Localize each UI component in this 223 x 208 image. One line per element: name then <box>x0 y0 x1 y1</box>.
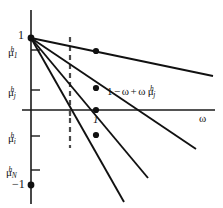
data-point-intercept-one <box>28 35 35 42</box>
data-point-mu-j <box>93 85 99 91</box>
x-axis-label-omega: ω <box>199 113 206 124</box>
plot-canvas <box>0 0 223 208</box>
y-label-minus-one: −1 <box>12 178 25 190</box>
data-point-minus-one <box>28 182 35 189</box>
formula-plus-sign: + <box>130 85 136 97</box>
y-label-mu-i: μhi <box>8 129 16 146</box>
subscript-index: i <box>14 137 16 146</box>
formula-annotation: 1−ω+ω μhj <box>107 85 155 98</box>
subscript-index: 1 <box>14 51 18 60</box>
formula-omega-first: ω <box>122 85 129 97</box>
figure-container: 1 μh1 μhj μhi μhN −1 1 ω 1−ω+ω μhj <box>0 0 223 208</box>
y-label-mu-1: μh1 <box>8 43 17 60</box>
formula-omega-second: ω <box>138 85 145 97</box>
y-label-mu-j: μhj <box>8 83 16 100</box>
formula-minus-sign: − <box>114 85 120 97</box>
formula-term-one: 1 <box>107 85 113 97</box>
x-tick-label-one: 1 <box>93 114 99 125</box>
subscript-index: j <box>14 91 16 100</box>
data-point-mu-i <box>93 132 99 138</box>
y-label-one: 1 <box>18 29 24 41</box>
formula-subscript-j: j <box>153 90 155 99</box>
data-point-mu-1 <box>93 48 99 54</box>
eigenvalue-line-mu-N <box>31 38 124 202</box>
